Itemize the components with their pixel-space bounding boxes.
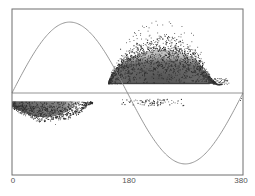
x-tick-label-380: 380 <box>234 176 247 185</box>
x-tick-label-0: 0 <box>11 176 15 185</box>
chart-canvas <box>0 0 255 196</box>
x-tick-label-180: 180 <box>122 176 135 185</box>
